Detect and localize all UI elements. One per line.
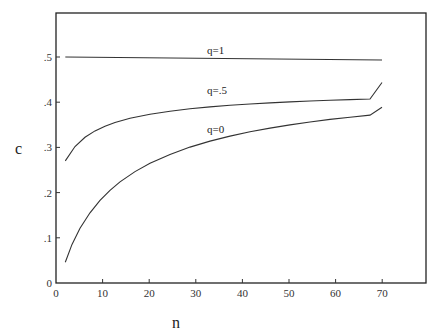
svg-text:20: 20 bbox=[144, 287, 156, 299]
svg-text:.4: .4 bbox=[44, 96, 53, 108]
svg-text:70: 70 bbox=[377, 287, 389, 299]
svg-text:30: 30 bbox=[190, 287, 202, 299]
svg-text:0: 0 bbox=[53, 287, 59, 299]
plot-frame bbox=[56, 13, 426, 283]
svg-text:60: 60 bbox=[330, 287, 342, 299]
curve-q1 bbox=[65, 57, 382, 60]
chart: 0 10 20 30 40 50 60 70 0 .1 .2 .3 .4 .5 … bbox=[0, 0, 434, 330]
curve-label-q1: q=1 bbox=[207, 44, 224, 56]
svg-text:0: 0 bbox=[47, 277, 53, 289]
svg-text:40: 40 bbox=[237, 287, 249, 299]
y-tick-labels: 0 .1 .2 .3 .4 .5 bbox=[44, 51, 53, 289]
curve-label-q0: q=0 bbox=[207, 123, 225, 135]
svg-text:.3: .3 bbox=[44, 141, 53, 153]
svg-text:.5: .5 bbox=[44, 51, 53, 63]
svg-text:10: 10 bbox=[97, 287, 109, 299]
y-axis-label: c bbox=[15, 140, 22, 157]
svg-text:.2: .2 bbox=[44, 187, 52, 199]
svg-text:.1: .1 bbox=[44, 232, 52, 244]
curve-label-q05: q=.5 bbox=[207, 84, 227, 96]
x-axis-label: n bbox=[172, 314, 180, 330]
x-tick-labels: 0 10 20 30 40 50 60 70 bbox=[53, 287, 388, 299]
svg-text:50: 50 bbox=[284, 287, 296, 299]
